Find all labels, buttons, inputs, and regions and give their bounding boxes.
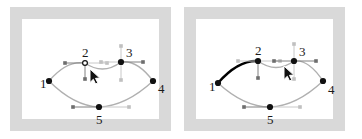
bezier-handle-grip-node3-right[interactable] [314,59,318,63]
panel-left[interactable]: 12345 [10,7,171,131]
node-label-1: 1 [40,77,47,90]
panel-left-graph-layer [10,7,171,131]
node-label-4: 4 [328,83,335,96]
graph-node-5[interactable] [267,104,273,110]
node-label-3: 3 [126,46,133,59]
graph-edge-1-2[interactable] [218,61,258,83]
graph-edge-5-4[interactable] [99,81,153,107]
graph-node-3[interactable] [291,58,297,64]
node-label-2: 2 [255,44,262,57]
bezier-handle-grip-node3-up[interactable] [292,42,296,46]
bezier-handle-grip-node3-right[interactable] [141,60,145,64]
graph-node-3[interactable] [118,59,124,65]
graph-edge-2-3[interactable] [258,61,294,68]
graph-node-2[interactable] [255,58,261,64]
screenshot-stage: 12345 12345 [0,0,362,139]
graph-node-1[interactable] [46,78,52,84]
graph-node-1[interactable] [215,80,221,86]
graph-node-4[interactable] [150,78,156,84]
graph-edge-1-2[interactable] [49,63,85,81]
bezier-handle-grip-node2-left[interactable] [236,59,240,63]
bezier-handle-grip-node2-left[interactable] [63,61,67,65]
mouse-cursor-icon [90,69,100,84]
bezier-handle-grip-node5-right[interactable] [127,105,131,109]
panel-right[interactable]: 12345 [184,7,345,131]
graph-edge-1-5[interactable] [49,81,99,107]
panel-right-graph-layer [184,7,345,131]
node-label-2: 2 [82,46,89,59]
graph-edge-5-4[interactable] [270,81,323,107]
bezier-handle-grip-node5-left[interactable] [242,105,246,109]
graph-edge-1-5[interactable] [218,83,270,107]
bezier-handle-grip-node3-left[interactable] [272,59,276,63]
bezier-handle-grip-node3-down[interactable] [292,77,296,81]
node-label-5: 5 [96,113,103,126]
bezier-handle-grip-node3-down[interactable] [119,78,123,82]
graph-edge-3-4[interactable] [294,61,323,81]
node-label-5: 5 [267,113,274,126]
bezier-handle-grip-node5-right[interactable] [298,105,302,109]
graph-edge-3-4[interactable] [121,62,153,81]
graph-svg-right[interactable] [184,7,345,131]
graph-node-2[interactable] [83,61,88,66]
graph-node-5[interactable] [96,104,102,110]
bezier-handle-grip-node3-left[interactable] [99,60,103,64]
graph-svg-left[interactable] [10,7,171,131]
cursor-arrow-glyph [90,69,100,84]
node-label-1: 1 [209,80,216,93]
bezier-handle-grip-node5-left[interactable] [71,105,75,109]
node-label-4: 4 [158,82,165,95]
node-label-3: 3 [299,45,306,58]
bezier-handle-grip-node2-down[interactable] [83,77,87,81]
graph-node-4[interactable] [320,78,326,84]
bezier-handle-grip-node3-up[interactable] [119,44,123,48]
bezier-handle-grip-node2-down[interactable] [256,76,260,80]
